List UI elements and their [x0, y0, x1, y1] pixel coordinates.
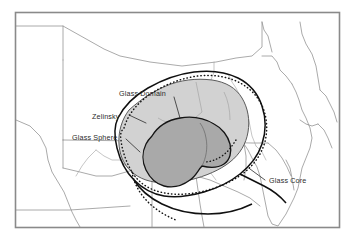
label-glass-core: Glass Core: [269, 176, 306, 185]
glass-culture-region-map: Glass Domain Zelinsky Glass Sphere Glass…: [0, 0, 355, 243]
map-canvas: Glass Domain Zelinsky Glass Sphere Glass…: [0, 0, 355, 243]
label-zelinsky: Zelinsky: [92, 112, 120, 121]
label-glass-domain: Glass Domain: [119, 89, 166, 98]
label-glass-sphere: Glass Sphere: [72, 133, 117, 142]
